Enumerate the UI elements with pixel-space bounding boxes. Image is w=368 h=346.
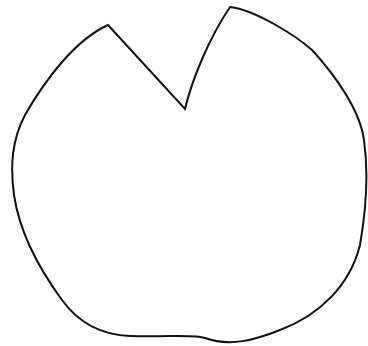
drawing-canvas: [0, 0, 368, 346]
lily-pad-shape: [12, 7, 366, 342]
lily-pad-outline: [0, 0, 368, 346]
